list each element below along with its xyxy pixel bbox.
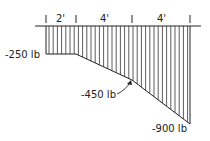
arrow-head-icon [127,80,132,85]
shear-diagram: 2' 4' 4' -250 lb -450 lb -900 lb [0,0,210,141]
value-label-250: -250 lb [5,49,40,60]
span-label-3: 4' [157,13,166,24]
span-ticks [46,15,190,23]
span-label-1: 2' [56,13,65,24]
shear-outline [46,26,190,124]
span-label-2: 4' [100,13,109,24]
value-label-450: -450 lb [81,89,116,100]
value-label-900: -900 lb [152,123,187,134]
